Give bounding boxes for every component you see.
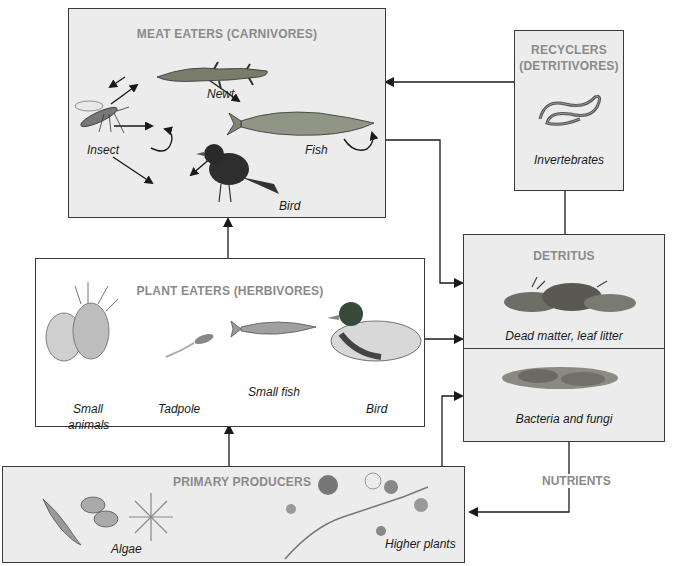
duck-illustration xyxy=(327,302,421,361)
detritus-box: DETRITUS Dead matter, leaf litter Bacter… xyxy=(463,234,665,442)
small-animals-illustration xyxy=(46,282,118,361)
herbivores-box: PLANT EATERS (HERBIVORES) Small animals … xyxy=(35,258,425,427)
producers-box: PRIMARY PRODUCERS Algae Higher plants xyxy=(2,466,465,563)
label-higher-plants: Higher plants xyxy=(385,537,456,551)
carnivores-box: MEAT EATERS (CARNIVORES) xyxy=(68,8,386,218)
label-dead-matter: Dead matter, leaf litter xyxy=(464,329,664,343)
label-small-animals-2: animals xyxy=(68,418,109,432)
label-newt: Newt xyxy=(207,87,234,101)
tadpole-illustration xyxy=(166,332,215,357)
bird-illustration xyxy=(196,144,279,202)
label-tadpole: Tadpole xyxy=(158,402,200,416)
newt-illustration xyxy=(157,62,267,89)
label-small-fish: Small fish xyxy=(248,385,300,399)
fish-illustration xyxy=(227,112,374,135)
small-fish-illustration xyxy=(231,321,316,337)
label-algae: Algae xyxy=(111,542,142,556)
label-bird: Bird xyxy=(279,199,300,213)
detritus-title: DETRITUS xyxy=(464,249,664,263)
leaf-litter-illustration xyxy=(502,277,637,317)
label-small-animals-1: Small xyxy=(73,402,103,416)
label-insect: Insect xyxy=(87,143,119,157)
detritus-divider xyxy=(464,348,664,349)
recyclers-title-line1: RECYCLERS xyxy=(515,43,623,57)
algae-illustration xyxy=(43,493,173,545)
label-fish: Fish xyxy=(305,143,328,157)
label-herbivore-bird: Bird xyxy=(366,402,387,416)
bacteria-fungi-illustration xyxy=(498,363,623,393)
recyclers-title-line2: (DETRITIVORES) xyxy=(515,59,623,73)
worm-illustration xyxy=(535,89,605,129)
recyclers-box: RECYCLERS (DETRITIVORES) Invertebrates xyxy=(514,30,624,191)
nutrients-label: NUTRIENTS xyxy=(540,474,613,488)
label-invertebrates: Invertebrates xyxy=(515,153,623,167)
label-bacteria-fungi: Bacteria and fungi xyxy=(464,412,664,426)
carnivore-arrows xyxy=(69,9,387,219)
insect-illustration xyxy=(75,101,129,133)
